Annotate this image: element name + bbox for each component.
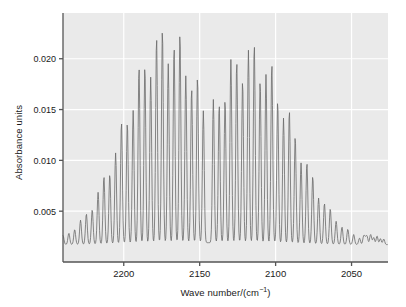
x-axis-title: Wave number/(cm−1) — [63, 286, 388, 298]
x-tick-label: 2100 — [265, 268, 286, 279]
spectrum-figure: 0.0050.0100.0150.0202200215021002050 Abs… — [0, 0, 406, 307]
y-tick-label: 0.005 — [33, 207, 56, 217]
x-tick-label: 2200 — [113, 268, 134, 279]
x-tick-label: 2050 — [341, 268, 362, 279]
x-tick-label: 2150 — [189, 268, 210, 279]
y-tick-label: 0.010 — [33, 156, 56, 166]
y-tick-label: 0.015 — [33, 105, 56, 115]
x-axis-title-main: Wave number/(cm — [180, 287, 259, 298]
chart-canvas: 0.0050.0100.0150.0202200215021002050 — [0, 0, 406, 307]
y-tick-label: 0.020 — [33, 54, 56, 64]
y-axis-title: Absorbance units — [13, 78, 24, 208]
x-axis-title-tail: ) — [267, 287, 270, 298]
